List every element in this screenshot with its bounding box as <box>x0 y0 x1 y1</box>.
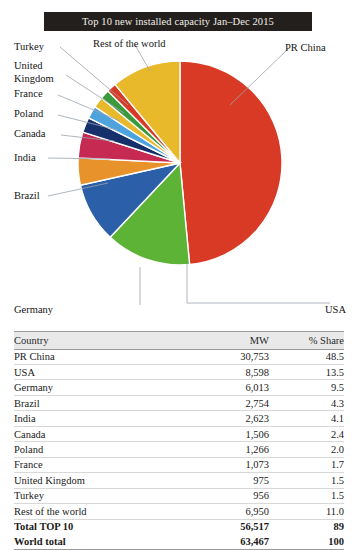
callout-label-usa: USA <box>325 304 346 316</box>
cell-mw: 8,598 <box>164 364 269 379</box>
cell-country: PR China <box>14 349 164 364</box>
cell-share: 9.5 <box>269 380 344 395</box>
pie-slice-pr-china <box>180 61 282 265</box>
table-header-row: Country MW % Share <box>14 332 344 350</box>
table-row: Poland1,2662.0 <box>14 442 344 457</box>
cell-share: 4.3 <box>269 395 344 410</box>
leader-line-usa <box>187 263 330 303</box>
table-total-row: Total TOP 1056,51789 <box>14 519 344 534</box>
cell-mw: 956 <box>164 488 269 503</box>
table-row: PR China30,75348.5 <box>14 349 344 364</box>
table-row: Rest of the world6,95011.0 <box>14 504 344 519</box>
cell-share: 1.7 <box>269 457 344 472</box>
cell-country: India <box>14 411 164 426</box>
cell-mw: 975 <box>164 473 269 488</box>
callout-label-poland: Poland <box>14 108 43 120</box>
cell-mw: 2,754 <box>164 395 269 410</box>
cell-mw: 63,467 <box>164 534 269 549</box>
cell-country: USA <box>14 364 164 379</box>
callout-label-france: France <box>14 88 43 100</box>
cell-country: World total <box>14 534 164 549</box>
callout-label-pr-china: PR China <box>285 42 326 54</box>
table-row: Turkey9561.5 <box>14 488 344 503</box>
column-header-country: Country <box>14 332 164 350</box>
cell-country: Canada <box>14 426 164 441</box>
cell-mw: 6,013 <box>164 380 269 395</box>
cell-share: 4.1 <box>269 411 344 426</box>
callout-label-rest-of-the-world: Rest of the world <box>93 38 166 50</box>
leader-line-pr-china <box>230 49 288 105</box>
cell-mw: 1,266 <box>164 442 269 457</box>
cell-country: Brazil <box>14 395 164 410</box>
chart-title: Top 10 new installed capacity Jan–Dec 20… <box>82 16 274 27</box>
callout-label-united-kingdom-line1: United <box>14 60 43 71</box>
cell-share: 11.0 <box>269 504 344 519</box>
callout-label-united-kingdom: United Kingdom <box>14 60 66 85</box>
cell-mw: 2,623 <box>164 411 269 426</box>
cell-mw: 6,950 <box>164 504 269 519</box>
leader-line-turkey <box>60 47 128 105</box>
cell-share: 1.5 <box>269 473 344 488</box>
cell-share: 100 <box>269 534 344 549</box>
column-header-share: % Share <box>269 332 344 350</box>
callout-label-india: India <box>14 152 36 164</box>
table-row: United Kingdom9751.5 <box>14 473 344 488</box>
cell-mw: 56,517 <box>164 519 269 534</box>
cell-country: Rest of the world <box>14 504 164 519</box>
cell-share: 89 <box>269 519 344 534</box>
callout-label-turkey: Turkey <box>14 41 44 53</box>
data-table: Country MW % Share PR China30,75348.5USA… <box>14 331 344 550</box>
cell-share: 13.5 <box>269 364 344 379</box>
callout-label-canada: Canada <box>14 128 46 140</box>
cell-mw: 30,753 <box>164 349 269 364</box>
callout-label-united-kingdom-line2: Kingdom <box>14 73 54 84</box>
cell-country: Germany <box>14 380 164 395</box>
data-table-wrap: Country MW % Share PR China30,75348.5USA… <box>14 331 344 550</box>
pie-slice-group <box>78 61 282 265</box>
cell-share: 48.5 <box>269 349 344 364</box>
cell-country: France <box>14 457 164 472</box>
cell-country: United Kingdom <box>14 473 164 488</box>
chart-title-bar: Top 10 new installed capacity Jan–Dec 20… <box>44 12 312 31</box>
table-row: Brazil2,7544.3 <box>14 395 344 410</box>
table-row: Germany6,0139.5 <box>14 380 344 395</box>
cell-share: 2.4 <box>269 426 344 441</box>
callout-label-brazil: Brazil <box>14 190 40 202</box>
table-row: India2,6234.1 <box>14 411 344 426</box>
callout-label-germany: Germany <box>14 304 53 316</box>
table-row: Canada1,5062.4 <box>14 426 344 441</box>
cell-mw: 1,073 <box>164 457 269 472</box>
table-head: Country MW % Share <box>14 332 344 350</box>
cell-country: Total TOP 10 <box>14 519 164 534</box>
column-header-mw: MW <box>164 332 269 350</box>
table-body: PR China30,75348.5USA8,59813.5Germany6,0… <box>14 349 344 549</box>
cell-share: 1.5 <box>269 488 344 503</box>
cell-mw: 1,506 <box>164 426 269 441</box>
table-row: USA8,59813.5 <box>14 364 344 379</box>
cell-country: Turkey <box>14 488 164 503</box>
table-total-row: World total63,467100 <box>14 534 344 549</box>
table-row: France1,0731.7 <box>14 457 344 472</box>
cell-share: 2.0 <box>269 442 344 457</box>
cell-country: Poland <box>14 442 164 457</box>
